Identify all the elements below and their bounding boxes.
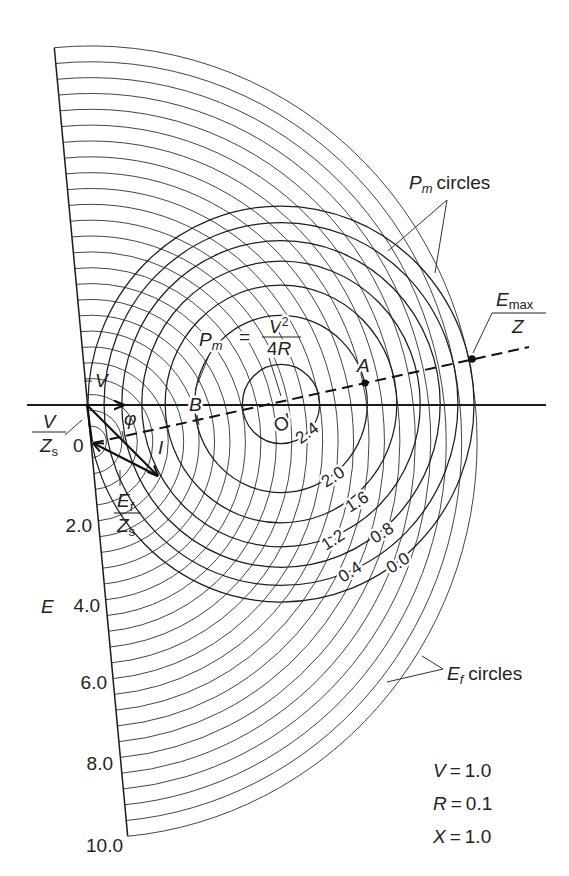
pm-value-label: 1.6 [342, 488, 372, 517]
e-axis-tick-label: 4.0 [74, 595, 100, 616]
point-a-label: A [356, 355, 370, 376]
ef-circles-leader-line [387, 669, 443, 682]
equation-denominator: 4R [267, 338, 292, 359]
parameter-v: V=1.0 [433, 760, 491, 781]
pm-circles-callout: Pmcircles [388, 172, 490, 273]
parameter-r: R=0.1 [433, 793, 492, 814]
pm-circle [104, 223, 458, 586]
v-label: V [95, 370, 110, 391]
ef-circles-callout: Efcircles [387, 656, 522, 687]
emax-denominator: Z [511, 316, 525, 337]
pm-equation-leader-line [195, 353, 210, 390]
equals-sign: = [239, 326, 250, 347]
e-axis-tick-label: 2.0 [66, 515, 92, 536]
emax-numerator: Emax [496, 289, 534, 312]
phi-angle-label: φ [124, 408, 136, 429]
e-axis-scale: E 2.0 4.0 6.0 8.0 10.0 [41, 515, 123, 856]
e-axis-tick-label: 6.0 [81, 672, 107, 693]
ef-over-zs-numerator: Ef [117, 490, 135, 514]
current-i-label: I [158, 437, 164, 458]
v-over-zs-numerator: V [43, 411, 58, 432]
pm-symbol: Pm [199, 329, 223, 353]
pm-circles-leader-line [388, 200, 447, 251]
equation-numerator: V2 [269, 315, 289, 337]
e-axis-tick-label: 10.0 [86, 835, 123, 856]
pm-value-label: 0.8 [367, 519, 397, 548]
pm-circles-label: Pmcircles [409, 172, 490, 196]
e-axis-tick-label: 8.0 [87, 753, 113, 774]
origin-zero-label: 0 [73, 435, 84, 456]
ef-circles-label: Efcircles [447, 663, 522, 687]
v-over-zs-denominator: Zs [39, 435, 59, 459]
parameter-legend: V=1.0 R=0.1 X=1.0 [432, 760, 492, 847]
pm-equation-leader-line-center [269, 358, 281, 396]
emax-leader-line [473, 313, 492, 353]
point-a-dot [361, 379, 368, 386]
ef-circle-arc [60, 109, 415, 773]
pm-circles-leader-line [435, 200, 447, 273]
ef-over-zs-denominator: Zs [116, 515, 136, 539]
point-b-label: B [189, 394, 202, 415]
v-over-zs-leader-line [65, 420, 82, 435]
emax-point-dot [468, 355, 476, 363]
ef-circles-leader-line [422, 656, 443, 669]
emax-over-z-label: Emax Z [473, 289, 546, 353]
pm-value-label: 2.4 [292, 418, 322, 447]
pm-value-label: 2.0 [318, 463, 348, 492]
pm-circle-value-labels: 2.4 2.0 1.6 1.2 0.8 0.4 0.0 [292, 418, 413, 586]
parameter-x: X=1.0 [432, 826, 491, 847]
motor-circle-diagram: V φ B I A 0 O′ V Zs Ef Zs Pm = V2 4R Ema… [0, 0, 569, 876]
e-axis-label: E [41, 596, 54, 617]
